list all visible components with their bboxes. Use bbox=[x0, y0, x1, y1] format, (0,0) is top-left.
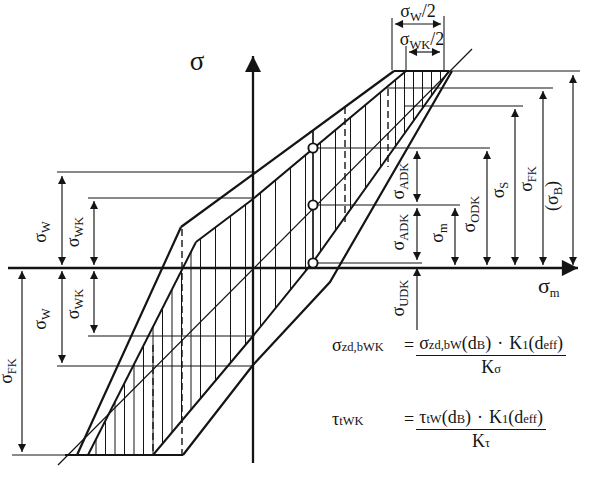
sigma-m-axis-label: σm bbox=[538, 273, 560, 300]
extension-lines bbox=[12, 16, 580, 455]
dim-sigma-b-label: (σB) bbox=[542, 181, 565, 211]
dim-sigma-adk-lower-label: σADK bbox=[388, 214, 411, 251]
dim-sigma-w-half-label: σW/2 bbox=[400, 1, 436, 24]
operating-point-marker bbox=[308, 143, 317, 152]
dim-sigma-fk-right-label: σFK bbox=[516, 166, 539, 192]
formula-sigma-zdbwk: σzd,bWK=σzd,bW(dB)·K1(deff)Kσ bbox=[332, 324, 566, 369]
dim-sigma-s-label: σS bbox=[488, 182, 511, 199]
dim-sigma-odk-label: σODK bbox=[459, 196, 482, 233]
operating-point-marker bbox=[308, 258, 317, 267]
dim-sigma-adk-upper-label: σADK bbox=[388, 163, 411, 200]
formula-fraction: τtW(dB)·K1(deff)Kτ bbox=[416, 407, 546, 452]
dim-sigma-wk-half-label: σWK/2 bbox=[400, 29, 445, 52]
dim-sigma-udk-label: σUDK bbox=[388, 280, 411, 317]
dim-sigma-w-upper-label: σW bbox=[30, 221, 53, 243]
smith-fatigue-diagram-page: σ σm σW/2 σWK/2 σW σWK σWK σW σFK σADK σ… bbox=[0, 0, 601, 478]
dim-sigma-w-lower-label: σW bbox=[30, 308, 53, 330]
formula-fraction: σzd,bW(dB)·K1(deff)Kσ bbox=[416, 333, 566, 378]
dim-sigma-wk-lower-label: σWK bbox=[63, 289, 86, 320]
formula-lhs: τtWK bbox=[332, 409, 404, 430]
operating-points bbox=[308, 130, 317, 268]
operating-point-marker bbox=[308, 200, 317, 209]
formula-lhs: σzd,bWK bbox=[332, 335, 404, 356]
dim-sigma-m-right-label: σm bbox=[427, 223, 450, 243]
sigma-axis-label: σ bbox=[190, 46, 205, 76]
formula-tau-twk: τtWK=τtW(dB)·K1(deff)Kτ bbox=[332, 398, 546, 443]
dim-sigma-wk-upper-label: σWK bbox=[63, 217, 86, 248]
dim-sigma-fk-left-label: σFK bbox=[0, 358, 19, 384]
